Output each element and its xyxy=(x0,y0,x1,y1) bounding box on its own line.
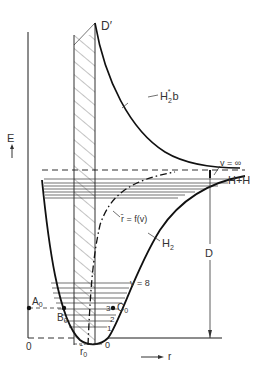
excited-state-label: H2*b xyxy=(160,88,179,104)
franck-condon-region xyxy=(74,35,95,345)
potential-energy-diagram: D′ H2*b E v = ∞ H+H r̄ = f(v) H2 D v = 8… xyxy=(0,0,259,373)
level-3-label: 3 xyxy=(106,304,111,313)
origin-label: 0 xyxy=(26,341,32,352)
mean-distance-label: r̄ = f(v) xyxy=(120,214,147,224)
level-2-label: 2 xyxy=(110,315,115,324)
level-0-label: 0 xyxy=(105,340,110,350)
v8-label: v = 8 xyxy=(130,278,150,288)
d-prime-label: D′ xyxy=(101,19,113,33)
r0-label: r̄0 xyxy=(79,345,87,358)
dissociation-energy-label: D xyxy=(205,247,213,259)
ground-state-curve xyxy=(42,176,245,344)
r-axis-label: r xyxy=(168,351,172,362)
dissociation-products-label: H+H xyxy=(228,174,250,186)
e-axis-label: E xyxy=(7,132,14,144)
point-a0 xyxy=(27,306,31,310)
v-infinity-label: v = ∞ xyxy=(220,158,241,168)
point-b0 xyxy=(62,306,66,310)
ground-state-label: H2 xyxy=(162,237,174,251)
c0-label: C0 xyxy=(117,302,128,314)
point-c0 xyxy=(111,306,115,310)
a0-label: A0 xyxy=(32,296,43,308)
level-1-label: 1 xyxy=(107,324,112,333)
